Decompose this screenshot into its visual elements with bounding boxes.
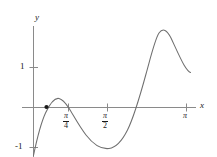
y-tick-label-neg1: -1 bbox=[15, 142, 23, 151]
function-graph-figure: y x 1 -1 π 4 π 2 π bbox=[0, 0, 217, 157]
x-tick-label-pi-over-4: π 4 bbox=[63, 112, 69, 130]
pi-over-2-numerator: π bbox=[102, 112, 108, 120]
plot-canvas bbox=[0, 0, 217, 157]
x-tick-label-pi-over-2: π 2 bbox=[102, 112, 108, 130]
x-axis-label: x bbox=[200, 101, 204, 110]
y-axis-label: y bbox=[35, 13, 39, 22]
y-tick-label-1: 1 bbox=[20, 62, 25, 71]
pi-over-2-denominator: 2 bbox=[102, 122, 108, 130]
pi-over-4-numerator: π bbox=[63, 112, 69, 120]
marked-point-dot bbox=[44, 105, 48, 109]
pi-over-4-denominator: 4 bbox=[63, 122, 69, 130]
x-tick-label-pi: π bbox=[183, 112, 187, 120]
function-curve bbox=[34, 30, 191, 155]
